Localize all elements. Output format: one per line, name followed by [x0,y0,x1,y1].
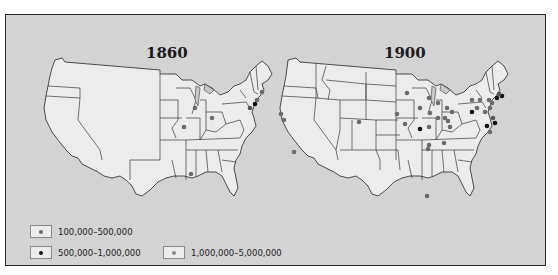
city-dot-icon [282,118,287,123]
city-dot-icon [405,91,410,96]
city-dot-icon [470,98,475,103]
legend-item-500k-1m: 500,000–1,000,000 [30,246,141,259]
city-dot-icon [279,112,284,117]
city-dot-icon [427,125,432,130]
city-dot-icon [483,110,488,115]
city-dot-icon [428,111,433,116]
city-dot-icon [470,110,475,115]
city-dot-icon [425,194,430,199]
city-dot-icon [248,106,253,111]
city-dot-icon [495,96,500,101]
city-dot-icon [39,230,43,234]
city-dot-icon [39,251,43,255]
city-dot-icon [448,125,453,130]
city-dot-icon [436,101,441,106]
legend-item-1m-5m: 1,000,000–5,000,000 [163,246,282,259]
city-dot-icon [427,96,432,101]
city-dot-icon [357,120,362,125]
city-dot-icon [403,122,408,127]
city-dot-icon [210,116,215,121]
city-dot-icon [253,102,258,107]
legend-label: 500,000–1,000,000 [58,248,141,258]
city-dot-icon [445,106,450,111]
legend-label: 100,000–500,000 [58,227,133,237]
city-dot-icon [395,112,400,117]
city-dot-icon [490,101,495,106]
city-dot-icon [450,110,455,115]
city-dot-icon [260,90,265,95]
city-dot-icon [193,106,198,111]
city-dot-icon [497,92,502,97]
city-dot-icon [436,116,441,121]
city-dot-icon [418,106,423,111]
city-dot-icon [485,124,490,129]
city-dot-icon [493,121,498,126]
legend-swatch [30,246,52,259]
city-dot-icon [255,98,260,103]
legend-swatch [163,246,185,259]
city-dot-icon [292,150,297,155]
legend-label: 1,000,000–5,000,000 [191,248,282,258]
city-dot-icon [189,172,194,177]
city-dot-icon [491,116,496,121]
legend-item-100k-500k: 100,000–500,000 [30,225,133,238]
city-dot-icon [442,141,447,146]
legend-swatch [30,225,52,238]
city-dot-icon [488,106,493,111]
city-dot-icon [427,143,432,148]
city-dot-icon [426,147,431,152]
city-dot-icon [172,251,176,255]
city-dot-icon [478,98,483,103]
city-dot-icon [418,127,423,132]
city-dot-icon [446,119,451,124]
city-dot-icon [488,130,493,135]
city-dot-icon [182,125,187,130]
city-dot-icon [475,106,480,111]
